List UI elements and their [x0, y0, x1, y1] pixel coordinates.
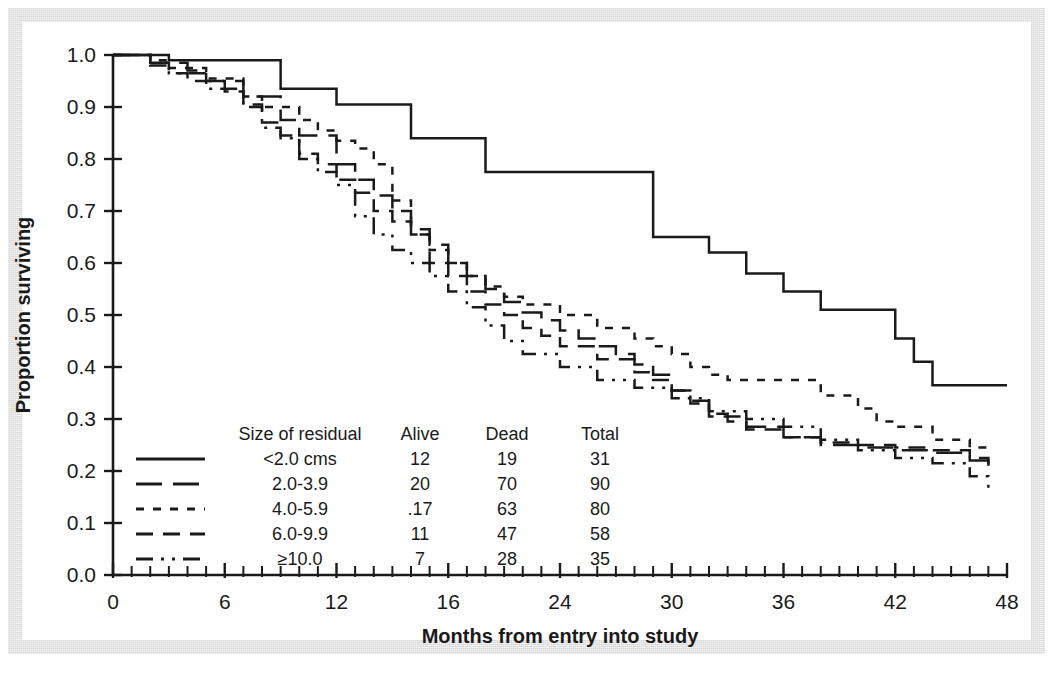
x-tick-label: 6 — [219, 590, 231, 613]
legend-row-label: ≥10.0 — [278, 549, 323, 569]
survival-curve-1 — [113, 55, 988, 471]
y-tick-label: 1.0 — [67, 43, 96, 66]
legend-row-alive: 12 — [410, 449, 430, 469]
legend-row-dead: 19 — [497, 449, 517, 469]
y-tick-label: 0.0 — [67, 563, 96, 586]
legend-header-total: Total — [581, 424, 619, 444]
y-tick-label: 0.9 — [67, 95, 96, 118]
x-tick-label: 48 — [995, 590, 1018, 613]
legend-row-label: <2.0 cms — [263, 449, 337, 469]
x-tick-label: 16 — [437, 590, 460, 613]
legend-header-alive: Alive — [400, 424, 439, 444]
legend-row-total: 90 — [590, 474, 610, 494]
y-tick-label: 0.4 — [67, 355, 97, 378]
legend-row-dead: 63 — [497, 499, 517, 519]
legend-row-label: 6.0-9.9 — [272, 524, 328, 544]
survival-curve-2 — [113, 55, 988, 450]
legend-header-dead: Dead — [485, 424, 528, 444]
x-tick-label: 24 — [548, 590, 572, 613]
survival-chart-svg: 0.00.10.20.30.40.50.60.70.80.91.00612162… — [0, 0, 1059, 678]
survival-curve-3 — [113, 55, 988, 471]
y-tick-label: 0.7 — [67, 199, 96, 222]
x-tick-label: 42 — [884, 590, 907, 613]
x-tick-label: 12 — [325, 590, 348, 613]
survival-curve-0 — [113, 55, 1007, 385]
figure-root: 0.00.10.20.30.40.50.60.70.80.91.00612162… — [0, 0, 1059, 678]
legend-row-label: 4.0-5.9 — [272, 499, 328, 519]
legend-header-group: Size of residual — [238, 424, 361, 444]
y-tick-label: 0.6 — [67, 251, 96, 274]
legend-row-dead: 70 — [497, 474, 517, 494]
legend-row-total: 58 — [590, 524, 610, 544]
y-axis-title: Proportion surviving — [12, 217, 34, 414]
x-tick-label: 36 — [772, 590, 795, 613]
legend-row-total: 80 — [590, 499, 610, 519]
y-tick-label: 0.8 — [67, 147, 96, 170]
x-tick-label: 30 — [660, 590, 683, 613]
legend-row-alive: .17 — [407, 499, 432, 519]
survival-chart: 0.00.10.20.30.40.50.60.70.80.91.00612162… — [0, 0, 1059, 678]
legend-row-total: 35 — [590, 549, 610, 569]
y-tick-label: 0.2 — [67, 459, 96, 482]
legend-row-dead: 28 — [497, 549, 517, 569]
legend-row-alive: 7 — [415, 549, 425, 569]
x-axis-title: Months from entry into study — [422, 625, 700, 647]
y-tick-label: 0.3 — [67, 407, 96, 430]
y-tick-label: 0.1 — [67, 511, 96, 534]
legend-row-label: 2.0-3.9 — [272, 474, 328, 494]
legend-row-alive: 11 — [411, 524, 430, 544]
chart-legend: Size of residualAliveDeadTotal<2.0 cms12… — [136, 424, 619, 569]
axes-layer — [104, 54, 1007, 578]
legend-row-alive: 20 — [410, 474, 430, 494]
x-tick-label: 0 — [107, 590, 119, 613]
y-tick-label: 0.5 — [67, 303, 96, 326]
legend-row-dead: 47 — [497, 524, 517, 544]
legend-row-total: 31 — [590, 449, 610, 469]
